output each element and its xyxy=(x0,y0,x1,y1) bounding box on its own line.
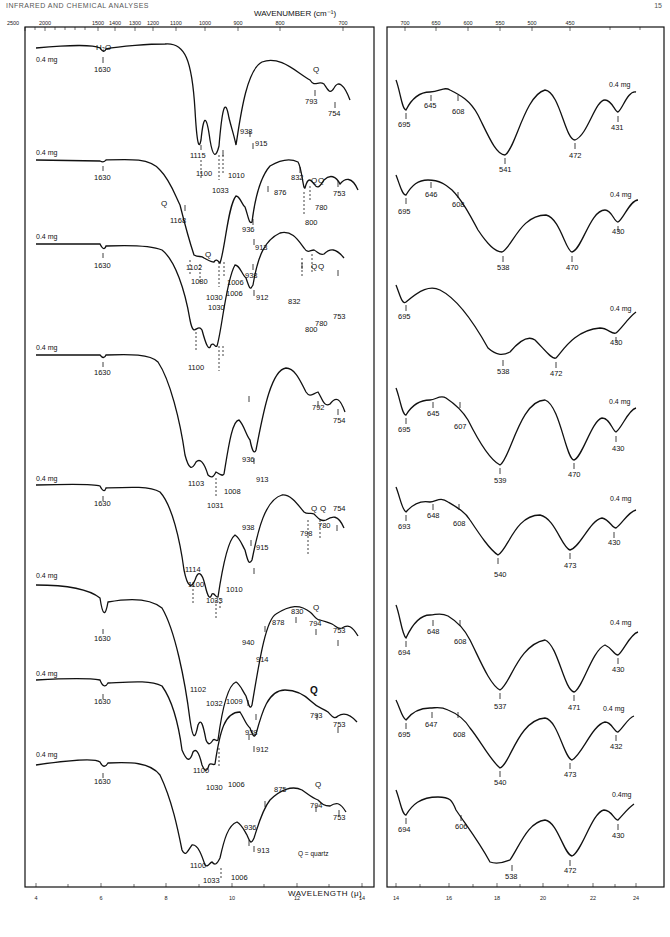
svg-text:754: 754 xyxy=(328,109,341,118)
right-panel-frame xyxy=(387,27,664,887)
svg-text:1030: 1030 xyxy=(206,783,223,792)
right-peak-labels: 695 645 608 541 472 431 695 646 608 538 … xyxy=(398,101,625,881)
svg-text:1102: 1102 xyxy=(190,685,206,694)
svg-text:430: 430 xyxy=(612,444,625,453)
dashed-peak-markers xyxy=(190,155,320,878)
svg-text:Q: Q xyxy=(310,685,318,696)
svg-text:940: 940 xyxy=(242,638,255,647)
svg-text:1033: 1033 xyxy=(203,876,220,885)
svg-text:1102: 1102 xyxy=(186,263,202,272)
svg-text:753: 753 xyxy=(333,813,346,822)
svg-text:537: 537 xyxy=(494,702,507,711)
svg-text:1033: 1033 xyxy=(206,596,223,605)
svg-text:913: 913 xyxy=(255,243,268,252)
svg-text:912: 912 xyxy=(256,293,269,302)
svg-text:695: 695 xyxy=(398,730,411,739)
svg-text:Q: Q xyxy=(320,504,326,513)
svg-text:1006: 1006 xyxy=(228,780,245,789)
svg-text:913: 913 xyxy=(257,846,270,855)
svg-text:1630: 1630 xyxy=(94,65,111,74)
svg-text:753: 753 xyxy=(333,189,346,198)
svg-text:538: 538 xyxy=(505,872,518,881)
svg-text:1006: 1006 xyxy=(226,289,243,298)
svg-text:1008: 1008 xyxy=(224,487,241,496)
svg-text:470: 470 xyxy=(568,470,581,479)
left-traces xyxy=(36,44,358,866)
svg-text:876: 876 xyxy=(274,188,287,197)
svg-text:914: 914 xyxy=(256,655,269,664)
svg-text:0.4 mg: 0.4 mg xyxy=(36,233,58,241)
svg-text:432: 432 xyxy=(610,742,623,751)
svg-text:1103: 1103 xyxy=(188,479,204,488)
svg-text:645: 645 xyxy=(424,101,437,110)
svg-text:Q: Q xyxy=(311,262,317,271)
svg-text:793: 793 xyxy=(310,711,323,720)
svg-text:1630: 1630 xyxy=(94,634,111,643)
svg-text:0.4 mg: 0.4 mg xyxy=(36,572,58,580)
svg-text:780: 780 xyxy=(318,521,331,530)
svg-text:753: 753 xyxy=(333,720,346,729)
svg-text:Q: Q xyxy=(311,176,317,185)
svg-text:540: 540 xyxy=(494,570,507,579)
svg-text:1006: 1006 xyxy=(231,873,248,882)
svg-text:608: 608 xyxy=(453,730,466,739)
svg-text:695: 695 xyxy=(398,312,411,321)
svg-text:1010: 1010 xyxy=(226,585,243,594)
svg-text:608: 608 xyxy=(452,107,465,116)
svg-text:1032: 1032 xyxy=(206,699,223,708)
svg-text:0.4 mg: 0.4 mg xyxy=(36,344,58,352)
svg-text:Q: Q xyxy=(311,504,317,513)
svg-text:936: 936 xyxy=(242,455,255,464)
svg-text:938: 938 xyxy=(242,523,255,532)
svg-text:608: 608 xyxy=(452,200,465,209)
svg-text:538: 538 xyxy=(497,263,510,272)
svg-text:647: 647 xyxy=(425,720,438,729)
svg-text:472: 472 xyxy=(550,369,563,378)
svg-text:695: 695 xyxy=(398,425,411,434)
svg-text:1006: 1006 xyxy=(227,278,244,287)
svg-text:470: 470 xyxy=(566,263,579,272)
svg-text:1100: 1100 xyxy=(196,169,212,178)
svg-text:472: 472 xyxy=(569,151,582,160)
svg-text:608: 608 xyxy=(454,637,467,646)
spectra-plot: 1630 1115 1100 1033 1010 938 915 793 754… xyxy=(0,0,670,937)
svg-text:936: 936 xyxy=(242,225,255,234)
svg-text:0.4 mg: 0.4 mg xyxy=(36,149,58,157)
svg-text:694: 694 xyxy=(398,825,411,834)
svg-text:830: 830 xyxy=(291,607,304,616)
svg-text:938: 938 xyxy=(240,127,253,136)
svg-text:0.4 mg: 0.4 mg xyxy=(609,81,631,89)
svg-text:875: 875 xyxy=(274,785,287,794)
svg-text:753: 753 xyxy=(333,626,346,635)
svg-text:793: 793 xyxy=(305,97,318,106)
svg-text:1100: 1100 xyxy=(190,861,206,870)
svg-text:694: 694 xyxy=(398,648,411,657)
svg-text:541: 541 xyxy=(499,165,512,174)
svg-text:Q: Q xyxy=(205,250,211,259)
svg-text:1100: 1100 xyxy=(188,363,204,372)
band-annotations: H₂O Q Q Q Q Q Q Q Q Q Q Q Q xyxy=(96,43,326,789)
svg-text:938: 938 xyxy=(245,728,258,737)
svg-text:913: 913 xyxy=(256,475,269,484)
svg-text:1630: 1630 xyxy=(94,499,111,508)
svg-text:430: 430 xyxy=(612,227,625,236)
svg-text:430: 430 xyxy=(610,338,623,347)
svg-text:794: 794 xyxy=(309,619,322,628)
svg-text:878: 878 xyxy=(272,618,285,627)
svg-text:0.4 mg: 0.4 mg xyxy=(36,751,58,759)
svg-text:538: 538 xyxy=(497,367,510,376)
svg-text:1080: 1080 xyxy=(191,277,208,286)
svg-text:606: 606 xyxy=(455,822,468,831)
svg-text:646: 646 xyxy=(425,190,438,199)
svg-text:H₂O: H₂O xyxy=(96,43,111,52)
svg-text:0.4 mg: 0.4 mg xyxy=(603,705,625,713)
svg-text:Q: Q xyxy=(318,262,324,271)
svg-text:539: 539 xyxy=(494,476,507,485)
svg-text:794: 794 xyxy=(310,801,323,810)
svg-text:645: 645 xyxy=(427,409,440,418)
svg-text:431: 431 xyxy=(611,123,624,132)
svg-text:753: 753 xyxy=(333,312,346,321)
svg-text:430: 430 xyxy=(608,538,621,547)
svg-text:1630: 1630 xyxy=(94,173,111,182)
svg-text:1115: 1115 xyxy=(190,151,206,160)
